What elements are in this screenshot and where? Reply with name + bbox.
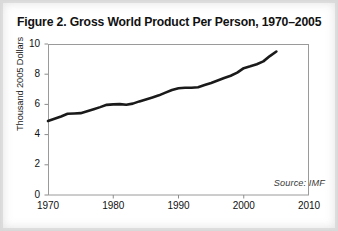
y-axis-tick-label: 6 bbox=[14, 98, 40, 109]
y-axis-tick-label: 8 bbox=[14, 68, 40, 79]
figure-page: Figure 2. Gross World Product Per Person… bbox=[0, 0, 338, 231]
plot-frame bbox=[49, 45, 309, 196]
x-axis-ticks bbox=[113, 195, 244, 199]
line-chart: Thousand 2005 Dollars 0246810 1970198019… bbox=[1, 1, 338, 231]
y-axis-tick-label: 0 bbox=[14, 189, 40, 200]
x-axis-tick-label: 1990 bbox=[159, 200, 199, 211]
plot-svg bbox=[1, 1, 338, 231]
x-axis-tick-label: 2010 bbox=[289, 200, 329, 211]
source-annotation: Source: IMF bbox=[274, 178, 325, 188]
y-axis-tick-label: 4 bbox=[14, 128, 40, 139]
y-axis-tick-label: 2 bbox=[14, 158, 40, 169]
y-axis-tick-label: 10 bbox=[14, 38, 40, 49]
data-series-line bbox=[48, 52, 276, 121]
x-axis-tick-label: 2000 bbox=[224, 200, 264, 211]
x-axis-tick-label: 1980 bbox=[93, 200, 133, 211]
y-axis-ticks bbox=[45, 44, 49, 195]
x-axis-tick-label: 1970 bbox=[28, 200, 68, 211]
